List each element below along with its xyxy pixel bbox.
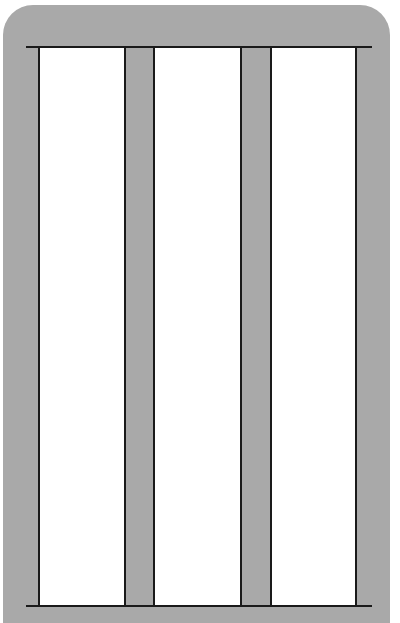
center-panel xyxy=(155,47,240,606)
mullion-2-left-line xyxy=(240,47,242,606)
top-rail-line xyxy=(26,46,372,48)
mullion-2-right-line xyxy=(270,47,272,606)
mullion-1-right-line xyxy=(153,47,155,606)
bottom-rail-line xyxy=(26,605,372,607)
left-border-line xyxy=(38,47,40,606)
left-panel xyxy=(40,47,125,606)
right-panel xyxy=(272,47,356,606)
mullion-1-left-line xyxy=(124,47,126,606)
right-border-line xyxy=(355,47,357,606)
